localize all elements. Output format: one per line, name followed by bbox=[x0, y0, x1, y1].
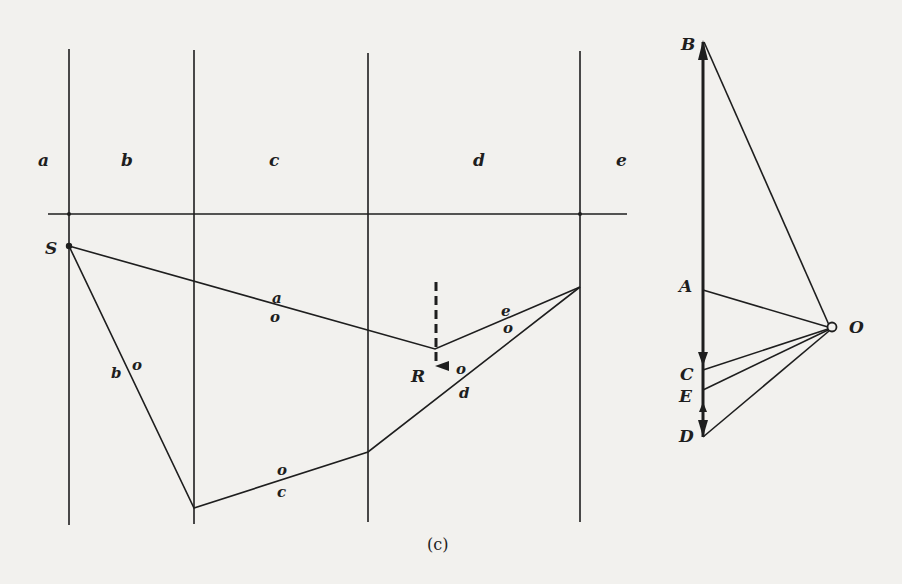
arrow-up-icon bbox=[698, 40, 708, 60]
ray-label-e-o: o bbox=[503, 319, 513, 337]
space-label-a: a bbox=[38, 150, 49, 170]
point-S-dot bbox=[66, 243, 72, 249]
junction-dot bbox=[578, 212, 582, 216]
junction-dot bbox=[67, 212, 71, 216]
pole-O-circle bbox=[828, 323, 837, 332]
ray-label-a-o: o bbox=[270, 308, 280, 326]
ray-OC bbox=[703, 329, 828, 370]
ray-label-d-o: o bbox=[456, 360, 466, 378]
ray-label-b-o: o bbox=[132, 356, 142, 374]
space-diagram: a b c d e S R a o b o o c o d e o bbox=[38, 49, 627, 525]
space-label-d: d bbox=[473, 150, 485, 170]
arrow-down-icon bbox=[698, 352, 708, 366]
ray-label-d: d bbox=[459, 384, 470, 402]
force-polygon: B A C E D O bbox=[677, 34, 864, 446]
figure-caption: (c) bbox=[427, 535, 448, 554]
point-label-R: R bbox=[410, 366, 425, 386]
ray-label-a: a bbox=[272, 289, 282, 307]
ray-label-e: e bbox=[501, 302, 511, 320]
polygon-label-E: E bbox=[678, 386, 693, 406]
ray-OE bbox=[703, 330, 828, 390]
ray-label-c: c bbox=[277, 483, 286, 501]
funicular-polygon-figure: a b c d e S R a o b o o c o d e o bbox=[0, 0, 902, 584]
space-label-c: c bbox=[269, 150, 280, 170]
ray-label-c-o: o bbox=[277, 461, 287, 479]
ray-OB bbox=[704, 42, 829, 325]
diagram-canvas: a b c d e S R a o b o o c o d e o bbox=[0, 0, 902, 584]
polygon-label-C: C bbox=[680, 364, 694, 384]
point-label-S: S bbox=[45, 238, 57, 258]
polygon-label-B: B bbox=[680, 34, 695, 54]
ray-label-b: b bbox=[111, 364, 122, 382]
ray-OA bbox=[703, 290, 828, 327]
string-b-c-d-lower bbox=[69, 246, 580, 508]
space-label-b: b bbox=[121, 150, 133, 170]
polygon-label-O: O bbox=[849, 317, 864, 337]
ray-OD bbox=[703, 331, 829, 437]
space-label-e: e bbox=[616, 150, 627, 170]
polygon-label-A: A bbox=[677, 276, 692, 296]
polygon-label-D: D bbox=[678, 426, 694, 446]
arrow-up-icon bbox=[699, 402, 707, 412]
